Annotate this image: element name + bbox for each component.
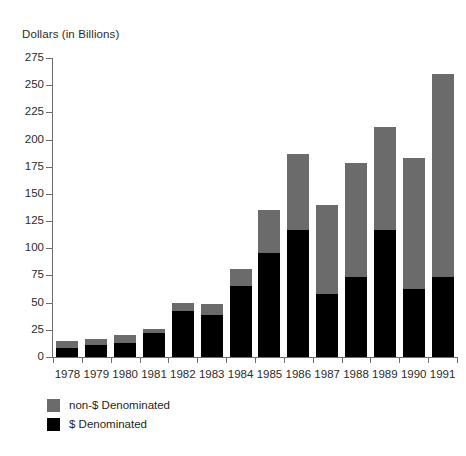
bar-segment-dollar [316, 294, 338, 357]
bar-segment-non-dollar [374, 127, 396, 230]
y-axis-tick-label: 275 [0, 52, 44, 64]
x-axis-tick [399, 358, 400, 363]
y-axis-tick-label: 200 [0, 134, 44, 146]
y-axis-tick-label-text: 200 [4, 134, 44, 146]
y-axis-tick [46, 248, 53, 249]
bar-segment-non-dollar [201, 304, 223, 315]
y-axis-tick [46, 357, 53, 358]
x-axis-tick [428, 358, 429, 363]
x-axis-tick [342, 358, 343, 363]
bar-segment-dollar [201, 315, 223, 357]
x-axis-tick [53, 358, 54, 363]
stacked-bar-chart: Dollars (in Billions) 275250225200175150… [0, 0, 466, 456]
bar-stack [374, 127, 396, 358]
y-axis-tick [46, 85, 53, 86]
y-axis-tick-label: 150 [0, 188, 44, 200]
y-axis-tick [46, 58, 53, 59]
bar-segment-dollar [432, 277, 454, 357]
y-axis-tick-label-text: 50 [4, 297, 44, 309]
bar-segment-dollar [172, 311, 194, 357]
y-axis-tick-label-text: 175 [4, 161, 44, 173]
y-axis-tick-label: 175 [0, 161, 44, 173]
y-axis-tick-label-text: 0 [4, 351, 44, 363]
plot-area [53, 58, 457, 357]
y-axis-tick-label-text: 25 [4, 324, 44, 336]
y-axis-tick [46, 194, 53, 195]
bar-segment-non-dollar [432, 74, 454, 276]
bar-segment-non-dollar [403, 158, 425, 288]
y-axis-tick [46, 275, 53, 276]
x-axis-tick [370, 358, 371, 363]
x-axis-tick-label: 1991 [423, 368, 463, 381]
bar-stack [143, 329, 165, 357]
bar-stack [287, 154, 309, 357]
bar-segment-dollar [56, 348, 78, 357]
y-axis-tick-label-text: 250 [4, 79, 44, 91]
x-axis-tick [168, 358, 169, 363]
bar-stack [85, 339, 107, 357]
bar-segment-non-dollar [56, 341, 78, 349]
x-axis-tick [255, 358, 256, 363]
legend-swatch-icon [47, 418, 60, 431]
bar-segment-non-dollar [258, 210, 280, 252]
y-axis-tick [46, 303, 53, 304]
bar-segment-dollar [287, 230, 309, 357]
bar-stack [230, 269, 252, 357]
y-axis-tick [46, 140, 53, 141]
y-axis-tick-label: 25 [0, 324, 44, 336]
y-axis-tick-label: 225 [0, 106, 44, 118]
bar-segment-dollar [143, 333, 165, 357]
bar-segment-dollar [374, 230, 396, 357]
chart-axis-title: Dollars (in Billions) [22, 28, 119, 41]
bar-stack [432, 74, 454, 357]
bar-segment-dollar [114, 343, 136, 357]
x-axis-tick [313, 358, 314, 363]
y-axis-tick-label-text: 100 [4, 242, 44, 254]
bar-segment-non-dollar [114, 335, 136, 343]
bar-segment-non-dollar [316, 205, 338, 294]
bar-segment-non-dollar [287, 154, 309, 230]
y-axis-tick-label: 100 [0, 242, 44, 254]
bar-stack [345, 163, 367, 357]
y-axis-tick-label: 0 [0, 351, 44, 363]
bar-stack [316, 205, 338, 357]
x-axis-tick [140, 358, 141, 363]
bar-stack [114, 335, 136, 357]
legend-item-label: non-$ Denominated [69, 399, 170, 412]
bar-stack [258, 210, 280, 357]
y-axis-tick-label: 75 [0, 269, 44, 281]
bar-segment-non-dollar [172, 303, 194, 312]
bar-stack [172, 303, 194, 357]
bar-segment-dollar [85, 345, 107, 357]
bar-stack [201, 304, 223, 357]
legend-item-label: $ Denominated [69, 418, 147, 431]
legend-item: $ Denominated [47, 415, 170, 434]
y-axis-tick [46, 330, 53, 331]
y-axis-tick-label: 125 [0, 215, 44, 227]
bar-stack [403, 158, 425, 357]
bar-segment-dollar [230, 286, 252, 357]
y-axis-tick [46, 112, 53, 113]
bar-stack [56, 341, 78, 357]
y-axis-tick-label-text: 75 [4, 269, 44, 281]
bar-segment-dollar [403, 289, 425, 357]
y-axis-tick [46, 167, 53, 168]
bar-segment-non-dollar [230, 269, 252, 286]
x-axis-tick [457, 358, 458, 363]
bar-segment-dollar [345, 277, 367, 357]
y-axis-tick-label-text: 125 [4, 215, 44, 227]
x-axis-tick [111, 358, 112, 363]
bar-segment-non-dollar [345, 163, 367, 276]
x-axis-tick [284, 358, 285, 363]
y-axis-tick-label-text: 150 [4, 188, 44, 200]
y-axis-tick-label-text: 275 [4, 52, 44, 64]
legend-swatch-icon [47, 399, 60, 412]
y-axis-tick-label: 50 [0, 297, 44, 309]
x-axis-tick [197, 358, 198, 363]
legend-item: non-$ Denominated [47, 396, 170, 415]
y-axis-tick [46, 221, 53, 222]
y-axis-tick-label-text: 225 [4, 106, 44, 118]
x-axis-tick [82, 358, 83, 363]
y-axis-tick-label: 250 [0, 79, 44, 91]
chart-legend: non-$ Denominated$ Denominated [47, 396, 170, 434]
